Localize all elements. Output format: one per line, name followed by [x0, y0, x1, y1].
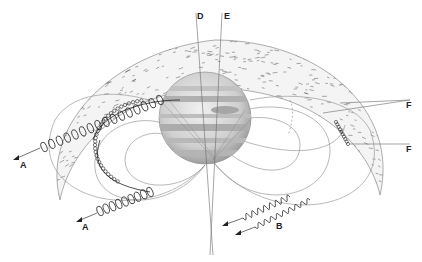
torus-dash — [53, 68, 57, 70]
torus-dash — [164, 159, 166, 160]
torus-dash — [100, 195, 102, 196]
torus-dash — [71, 57, 74, 58]
torus-dash — [126, 120, 129, 121]
helix-loop — [55, 135, 64, 146]
torus-dash — [143, 165, 147, 166]
torus-dash — [54, 43, 59, 44]
torus-dash — [92, 85, 96, 86]
coil-bead — [93, 147, 96, 150]
torus-dash — [84, 64, 89, 65]
torus-dash — [141, 47, 144, 49]
torus-dash — [274, 188, 278, 189]
torus-dash — [102, 45, 107, 46]
torus-dash — [250, 37, 254, 38]
label-c: D — [197, 11, 204, 21]
torus-dash — [386, 151, 389, 152]
torus-dash — [87, 152, 92, 154]
torus-dash — [163, 146, 167, 148]
torus-dash — [107, 129, 110, 130]
torus-dash — [82, 172, 86, 173]
torus-dash — [55, 70, 58, 71]
torus-dash — [350, 46, 352, 47]
torus-dash — [41, 193, 43, 194]
torus-dash — [216, 190, 219, 191]
torus-dash — [133, 189, 136, 191]
torus-dash — [379, 106, 381, 107]
torus-dash — [325, 182, 330, 183]
torus-dash — [76, 91, 79, 94]
torus-dash — [49, 151, 53, 153]
torus-dash — [342, 148, 347, 149]
torus-dash — [262, 158, 265, 159]
field-line — [288, 100, 293, 135]
torus-dash — [186, 39, 190, 40]
torus-dash — [209, 182, 211, 183]
torus-dash — [149, 42, 151, 43]
torus-dash — [138, 45, 141, 46]
torus-dash — [377, 110, 379, 111]
torus-dash — [250, 188, 255, 189]
torus-dash — [221, 163, 226, 164]
torus-dash — [108, 188, 112, 189]
torus-dash — [148, 113, 150, 114]
torus-dash — [47, 87, 49, 88]
coil-bead — [94, 136, 97, 139]
coil-bead — [93, 140, 96, 143]
torus-dash — [316, 145, 319, 146]
torus-dash — [85, 152, 87, 153]
torus-dash — [386, 39, 390, 40]
torus-dash — [162, 39, 166, 41]
torus-dash — [55, 163, 57, 164]
torus-dash — [149, 142, 152, 143]
torus-dash — [374, 90, 377, 91]
torus-dash — [90, 95, 92, 96]
torus-dash — [92, 63, 95, 65]
torus-dash — [350, 86, 352, 87]
torus-dash — [129, 52, 133, 54]
torus-dash — [111, 49, 115, 50]
torus-dash — [56, 86, 59, 87]
torus-dash — [218, 162, 223, 163]
torus-dash — [364, 103, 367, 104]
torus-dash — [42, 158, 45, 159]
torus-dash — [90, 181, 92, 182]
torus-dash — [372, 75, 375, 76]
torus-dash — [67, 54, 69, 55]
torus-dash — [45, 75, 47, 77]
torus-dash — [145, 118, 148, 119]
torus-dash — [293, 48, 297, 49]
torus-dash — [187, 166, 191, 167]
label-f: F — [406, 144, 412, 154]
torus-dash — [364, 194, 367, 195]
torus-dash — [47, 36, 50, 39]
torus-dash — [84, 164, 87, 165]
helix-loop — [40, 141, 49, 152]
torus-dash — [40, 115, 42, 116]
torus-dash — [42, 117, 44, 119]
arrowhead-b-upper — [222, 221, 228, 226]
torus-dash — [379, 137, 383, 138]
torus-dash — [385, 135, 389, 137]
coil-bead — [104, 170, 107, 173]
torus-dash — [161, 150, 165, 151]
torus-dash — [268, 101, 272, 102]
torus-dash — [129, 112, 132, 114]
torus-dash — [136, 166, 140, 167]
torus-dash — [284, 163, 287, 164]
torus-dash — [347, 166, 351, 168]
torus-dash — [44, 163, 46, 164]
torus-dash — [105, 141, 108, 143]
torus-dash — [104, 65, 106, 66]
torus-dash — [65, 61, 68, 63]
torus-dash — [289, 190, 292, 191]
torus-dash — [112, 60, 114, 61]
torus-dash — [351, 154, 354, 156]
torus-dash — [97, 185, 101, 186]
torus-dash — [104, 162, 107, 164]
torus-dash — [103, 36, 106, 38]
torus-dash — [43, 68, 45, 69]
torus-dash — [358, 70, 362, 72]
torus-dash — [54, 48, 58, 50]
torus-dash — [270, 119, 273, 120]
torus-dash — [96, 39, 101, 40]
